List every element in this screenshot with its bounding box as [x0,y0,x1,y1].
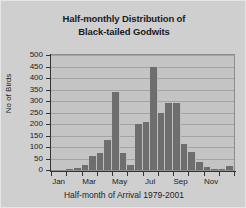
bar [158,113,166,171]
bar [181,144,189,170]
x-axis-tickmark [158,172,159,176]
y-axis-ticklabel: 500 [30,51,43,59]
bar [82,165,90,170]
chart-title-line-1: Half-monthly Distribution of [1,13,246,26]
bar [112,92,120,170]
bar [66,169,74,170]
x-axis-tickmark [219,172,220,176]
bar [104,140,112,170]
x-axis-tickmark [188,172,189,176]
y-axis-ticklabel: 100 [30,143,43,151]
bar [204,167,212,170]
y-axis-ticklabel: 50 [34,155,43,163]
x-axis-ticklabel: Nov [204,177,218,186]
x-axis-tickmark [66,172,67,176]
x-axis-tickmark [97,172,98,176]
bar [165,103,173,170]
bar-series [51,55,234,170]
chart-figure: Half-monthly Distribution of Black-taile… [0,0,246,208]
x-axis-tickmark [127,172,128,176]
plot-area [50,54,235,171]
x-axis-label: Half-month of Arrival 1979-2001 [1,190,246,200]
bar [188,152,196,170]
y-axis-ticklabel: 300 [30,97,43,105]
x-axis-ticklabel: Mar [82,177,96,186]
x-axis-tickmark [173,172,174,176]
bar [89,156,97,170]
x-axis-tickmark [204,172,205,176]
chart-title: Half-monthly Distribution of Black-taile… [1,13,246,38]
y-axis-ticklabel: 400 [30,74,43,82]
y-axis-ticklabel: 0 [39,166,43,174]
x-axis-tickmark [234,172,235,176]
x-axis-ticklabel: May [112,177,127,186]
x-axis-tickmark [143,172,144,176]
bar [150,67,158,171]
bar [120,153,128,170]
bar [219,169,227,170]
bar [97,153,105,170]
y-axis-ticklabel: 350 [30,86,43,94]
bar [173,103,181,170]
bar [196,162,204,170]
y-axis-ticklabel: 250 [30,109,43,117]
x-axis-ticklabel: Jan [52,177,65,186]
y-axis-ticklabel: 450 [30,63,43,71]
bar [135,124,143,170]
y-axis-ticklabel: 150 [30,132,43,140]
y-axis-ticklabels: 050100150200250300350400450500 [1,54,46,171]
bar [143,122,151,170]
x-axis-ticklabels: JanMarMayJulSepNov [50,177,235,189]
bar [127,165,135,170]
bar [211,169,219,170]
bar [74,168,82,170]
y-axis-line [50,54,51,172]
y-axis-ticklabel: 200 [30,120,43,128]
x-axis-tickmark [51,172,52,176]
x-axis-ticklabel: Sep [174,177,188,186]
x-axis-tickmark [82,172,83,176]
x-axis-ticklabel: Jul [145,177,155,186]
bar [226,166,234,170]
chart-title-line-2: Black-tailed Godwits [1,26,246,39]
x-axis-tickmark [112,172,113,176]
